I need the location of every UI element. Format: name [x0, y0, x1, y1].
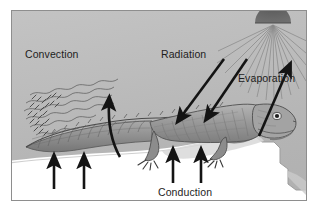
label-evaporation: Evaporation [238, 73, 295, 84]
label-radiation: Radiation [161, 49, 206, 60]
diagram-artwork [12, 11, 307, 201]
label-conduction: Conduction [158, 187, 212, 198]
illustration-canvas: Convection Radiation Evaporation Conduct… [0, 0, 318, 210]
sun-icon [217, 10, 307, 101]
diagram-plate: Convection Radiation Evaporation Conduct… [11, 10, 307, 201]
label-convection: Convection [25, 49, 79, 60]
convection-hatching [28, 93, 61, 135]
